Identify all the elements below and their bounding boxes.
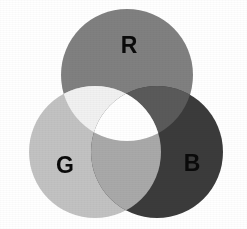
venn-diagram-canvas: R G B (0, 0, 247, 229)
label-green: G (56, 152, 74, 178)
venn-diagram-figure: R G B (0, 0, 247, 229)
label-blue: B (184, 150, 201, 176)
label-red: R (121, 32, 138, 58)
